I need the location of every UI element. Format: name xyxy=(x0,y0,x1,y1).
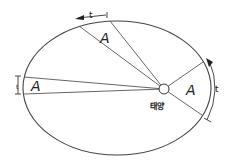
top-time-label: t xyxy=(89,10,93,20)
top-area-label: A xyxy=(99,30,110,46)
orbit-ellipse xyxy=(23,21,211,155)
right-sector-edge-top xyxy=(164,62,203,89)
sun-label: 태양 xyxy=(150,101,165,111)
kepler-diagram: A A A t t t 태양 xyxy=(0,0,233,167)
left-sector-edge-top xyxy=(24,77,164,89)
right-sector-edge-bottom xyxy=(164,89,202,115)
right-time-arrowhead-icon xyxy=(206,58,213,67)
left-area-label: A xyxy=(30,78,41,94)
right-time-label: t xyxy=(215,84,219,94)
right-area-label: A xyxy=(185,82,196,98)
left-time-label: t xyxy=(16,83,19,90)
sun-icon xyxy=(159,84,169,94)
left-sector-edge-bottom xyxy=(24,89,164,94)
top-time-arrowhead-icon xyxy=(75,15,84,20)
